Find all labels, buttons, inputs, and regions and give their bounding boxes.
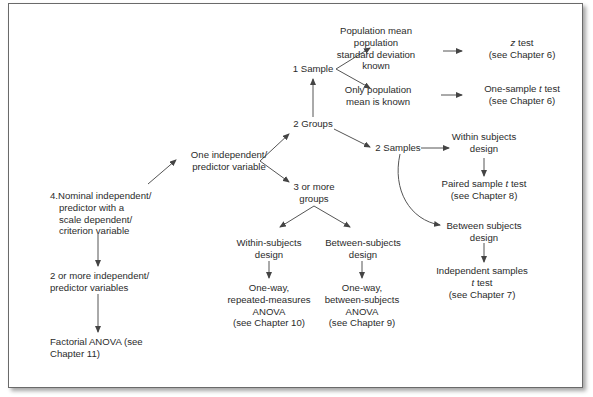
node-line: Only population	[345, 84, 412, 96]
node-line: One-sample t test	[484, 83, 560, 95]
node-line: ANOVA	[325, 306, 400, 318]
arrow-three-to-between-design	[314, 206, 350, 227]
node-line: One-way,	[325, 282, 400, 294]
node-line: mean is known	[345, 96, 412, 108]
node-paired-t: Paired sample t test (see Chapter 8)	[442, 178, 527, 202]
node-line: design	[325, 249, 401, 261]
node-line: design	[446, 232, 521, 244]
node-line: Independent samples	[436, 265, 528, 277]
node-line: standard deviation	[337, 49, 415, 61]
node-two-groups: 2 Groups	[293, 118, 332, 130]
node-line: ANOVA	[227, 306, 310, 318]
node-line: scale dependent/	[50, 214, 151, 226]
node-two-samples: 2 Samples	[375, 142, 420, 154]
node-two-plus-iv: 2 or more independent/ predictor variabl…	[50, 270, 149, 294]
node-line: design	[452, 143, 517, 155]
node-line: (see Chapter 6)	[484, 95, 560, 107]
node-three-groups: 3 or more groups	[293, 181, 334, 205]
arrow-two-groups-to-two-samples	[334, 129, 370, 147]
node-line: (see Chapter 10)	[227, 317, 310, 329]
node-line: Between-subjects	[325, 237, 401, 249]
node-line: 1 Sample	[293, 63, 334, 75]
node-only-mean-known: Only population mean is known	[345, 84, 412, 108]
arrow-three-to-within-design	[280, 206, 314, 227]
node-z-test: z test (see Chapter 6)	[489, 37, 556, 61]
node-between-design-3: Between-subjects design	[325, 237, 401, 261]
node-line: Within-subjects	[236, 237, 301, 249]
node-line: (see Chapter 9)	[325, 317, 400, 329]
node-line: Factorial ANOVA (see	[50, 336, 143, 348]
italic-t: t	[472, 277, 475, 288]
node-within-design-2: Within subjects design	[452, 131, 517, 155]
node-line: 2 Samples	[375, 142, 420, 154]
node-line: (see Chapter 8)	[442, 190, 527, 202]
node-line: One-way,	[227, 282, 310, 294]
node-line: criterion variable	[50, 225, 151, 237]
node-line: Population mean	[337, 25, 415, 37]
node-line: repeated-measures	[227, 294, 310, 306]
node-one-iv: One independent/ predictor variable	[191, 149, 267, 173]
node-line: One independent/	[191, 149, 267, 161]
node-one-sample-t: One-sample t test (see Chapter 6)	[484, 83, 560, 107]
node-line: 4.Nominal independent/	[50, 190, 151, 202]
node-line: groups	[293, 193, 334, 205]
node-nominal-iv-scale-dv: 4.Nominal independent/ predictor with a …	[50, 190, 151, 237]
italic-z: z	[511, 37, 516, 48]
node-line: population	[337, 37, 415, 49]
node-bs-anova: One-way, between-subjects ANOVA (see Cha…	[325, 282, 400, 329]
arrow-root-to-one-iv	[148, 160, 176, 184]
node-rm-anova: One-way, repeated-measures ANOVA (see Ch…	[227, 282, 310, 329]
node-line: 2 or more independent/	[50, 270, 149, 282]
node-pop-sd-known: Population mean population standard devi…	[337, 25, 415, 72]
italic-t: t	[539, 83, 542, 94]
node-between-design-2: Between subjects design	[446, 220, 521, 244]
node-line: (see Chapter 6)	[489, 49, 556, 61]
node-independent-t: Independent samples t test (see Chapter …	[436, 265, 528, 300]
node-line: 3 or more	[293, 181, 334, 193]
node-line: predictor variables	[50, 282, 149, 294]
arrow-two-samples-to-between	[398, 154, 440, 225]
node-one-sample: 1 Sample	[293, 63, 334, 75]
node-line: z test	[489, 37, 556, 49]
node-line: 2 Groups	[293, 118, 332, 130]
italic-t: t	[506, 178, 509, 189]
node-line: (see Chapter 7)	[436, 289, 528, 301]
node-within-design-3: Within-subjects design	[236, 237, 301, 261]
node-line: Paired sample t test	[442, 178, 527, 190]
node-line: Within subjects	[452, 131, 517, 143]
node-line: t test	[436, 277, 528, 289]
node-line: Between subjects	[446, 220, 521, 232]
node-line: predictor variable	[191, 161, 267, 173]
node-line: design	[236, 249, 301, 261]
node-line: predictor with a	[50, 202, 151, 214]
node-line: between-subjects	[325, 294, 400, 306]
node-line: Chapter 11)	[50, 348, 143, 360]
node-factorial-anova: Factorial ANOVA (see Chapter 11)	[50, 336, 143, 360]
node-line: known	[337, 60, 415, 72]
